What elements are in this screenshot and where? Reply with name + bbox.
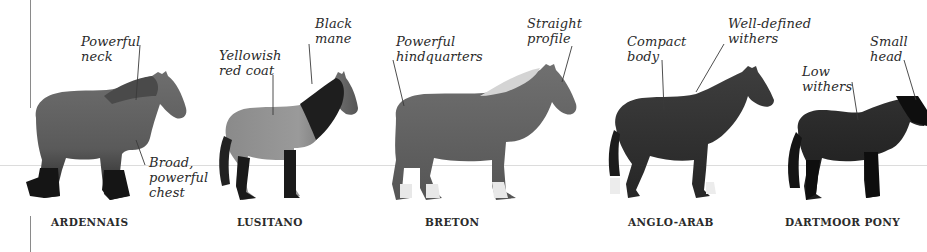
annotation-line: Well-defined	[728, 16, 811, 31]
annotation-line: mane	[315, 31, 352, 46]
annotation-line: Straight	[527, 16, 582, 31]
breed-label-breton: BRETON	[425, 216, 480, 228]
annotation-line: Yellowish	[219, 48, 282, 63]
annotation-line: withers	[802, 79, 852, 94]
horse-lusitano	[219, 71, 358, 200]
annotation-line: hindquarters	[396, 49, 483, 64]
annotation-line: Powerful	[81, 34, 140, 49]
annotation-dartmoor-withers: Low withers	[802, 64, 852, 94]
horse-breton	[392, 64, 576, 200]
annotation-line: Small	[870, 34, 908, 49]
breed-label-anglo-arab: ANGLO-ARAB	[628, 216, 714, 228]
horse-dartmoor-pony	[788, 96, 927, 200]
annotation-anglo-arab-withers: Well-defined withers	[728, 16, 811, 46]
annotation-line: head	[870, 49, 908, 64]
annotation-ardennais-neck: Powerful neck	[81, 34, 140, 64]
annotation-ardennais-chest: Broad, powerful chest	[149, 155, 208, 200]
annotation-line: red coat	[219, 63, 282, 78]
breed-label-ardennais: ARDENNAIS	[51, 216, 128, 228]
annotation-breton-profile: Straight profile	[527, 16, 582, 46]
annotation-lusitano-coat: Yellowish red coat	[219, 48, 282, 78]
breed-label-lusitano: LUSITANO	[237, 216, 303, 228]
annotation-lusitano-mane: Black mane	[315, 16, 352, 46]
annotation-line: neck	[81, 49, 140, 64]
annotation-line: Low	[802, 64, 852, 79]
annotation-anglo-arab-body: Compact body	[627, 34, 686, 64]
annotation-line: profile	[527, 31, 582, 46]
annotation-line: Black	[315, 16, 352, 31]
annotation-dartmoor-head: Small head	[870, 34, 908, 64]
annotation-line: chest	[149, 185, 208, 200]
annotation-line: powerful	[149, 170, 208, 185]
breed-label-dartmoor-pony: DARTMOOR PONY	[785, 216, 900, 228]
annotation-line: Broad,	[149, 155, 208, 170]
annotation-line: Powerful	[396, 34, 483, 49]
annotation-line: Compact	[627, 34, 686, 49]
annotation-line: withers	[728, 31, 811, 46]
annotation-breton-hindquarters: Powerful hindquarters	[396, 34, 483, 64]
annotation-line: body	[627, 49, 686, 64]
horse-anglo-arab	[609, 66, 774, 198]
